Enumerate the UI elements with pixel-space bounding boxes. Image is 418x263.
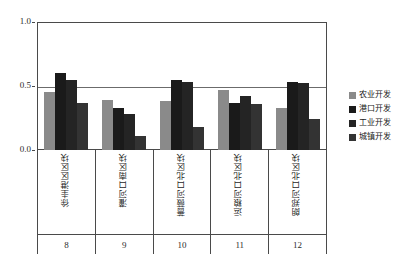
- bar: [44, 92, 55, 150]
- legend-label: 农业开发: [359, 91, 391, 99]
- bar: [171, 80, 182, 150]
- category-number: 10: [154, 235, 212, 254]
- y-tick-mark: [32, 150, 35, 151]
- legend-item: 工业开发: [349, 116, 415, 130]
- bar-group: [95, 22, 153, 150]
- y-tick-label: 1.0: [20, 17, 31, 26]
- category-cell: 运粮河口北区块: [211, 150, 269, 234]
- legend-swatch-icon: [349, 92, 356, 99]
- category-label: 朗郑河口北区块: [293, 153, 302, 216]
- bar: [77, 103, 88, 150]
- legend-swatch-icon: [349, 134, 356, 141]
- legend-item: 港口开发: [349, 102, 415, 116]
- bar: [287, 82, 298, 150]
- bar-chart: 0.00.51.0 徐圭港区区块灌河口南区块蔷薇河口北区块运粮河口北区块朗郑河口…: [0, 0, 418, 263]
- category-cell: 徐圭港区区块: [38, 150, 96, 234]
- bar: [135, 136, 146, 150]
- legend-swatch-icon: [349, 106, 356, 113]
- bar-group: [37, 22, 95, 150]
- category-number: 11: [211, 235, 269, 254]
- legend-label: 城镇开发: [359, 133, 391, 141]
- category-cell: 朗郑河口北区块: [269, 150, 327, 234]
- bar: [66, 80, 77, 150]
- bar-group: [153, 22, 211, 150]
- category-number: 8: [38, 235, 96, 254]
- legend-label: 港口开发: [359, 105, 391, 113]
- y-tick-mark: [32, 86, 35, 87]
- bar: [160, 101, 171, 150]
- y-tick-label: 0.5: [20, 81, 31, 90]
- category-label-table: 徐圭港区区块灌河口南区块蔷薇河口北区块运粮河口北区块朗郑河口北区块: [37, 150, 327, 234]
- legend-label: 工业开发: [359, 119, 391, 127]
- bar-group: [211, 22, 269, 150]
- legend-swatch-icon: [349, 120, 356, 127]
- bar: [298, 83, 309, 150]
- y-tick-mark: [32, 22, 35, 23]
- bar: [251, 104, 262, 150]
- category-label: 徐圭港区区块: [62, 153, 71, 207]
- category-label: 灌河口南区块: [120, 153, 129, 207]
- category-cell: 蔷薇河口北区块: [154, 150, 212, 234]
- bars-layer: [37, 22, 327, 150]
- category-number: 12: [269, 235, 327, 254]
- bar: [113, 108, 124, 150]
- category-label: 蔷薇河口北区块: [178, 153, 187, 216]
- legend-item: 城镇开发: [349, 130, 415, 144]
- bar-group: [269, 22, 327, 150]
- category-cell: 灌河口南区块: [96, 150, 154, 234]
- bar: [124, 114, 135, 150]
- legend-item: 农业开发: [349, 88, 415, 102]
- chart-legend: 农业开发港口开发工业开发城镇开发: [349, 88, 415, 144]
- bar: [276, 108, 287, 150]
- bar: [182, 82, 193, 150]
- bar: [102, 100, 113, 150]
- category-number: 9: [96, 235, 154, 254]
- y-axis: 0.00.51.0: [6, 22, 35, 150]
- bar: [309, 119, 320, 150]
- bar: [240, 96, 251, 150]
- category-number-table: 89101112: [37, 234, 327, 254]
- bar: [218, 90, 229, 150]
- bar: [229, 103, 240, 150]
- category-label: 运粮河口北区块: [235, 153, 244, 216]
- bar: [55, 73, 66, 150]
- bar: [193, 127, 204, 150]
- y-tick-label: 0.0: [20, 145, 31, 154]
